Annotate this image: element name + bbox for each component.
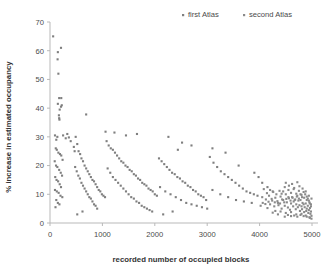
- data-point: [137, 177, 139, 179]
- data-point: [266, 207, 268, 209]
- data-point: [78, 150, 80, 152]
- data-point: [285, 182, 287, 184]
- y-tick-label: 30: [36, 133, 44, 142]
- data-point: [143, 206, 145, 208]
- data-point: [54, 206, 56, 208]
- data-point: [79, 177, 81, 179]
- data-point: [84, 165, 86, 167]
- data-point: [275, 193, 277, 195]
- data-point: [108, 144, 110, 146]
- data-point: [305, 190, 307, 192]
- data-point: [211, 147, 213, 149]
- data-point: [117, 182, 119, 184]
- data-point: [172, 210, 174, 212]
- data-point: [56, 149, 58, 151]
- data-point: [82, 160, 84, 162]
- data-point: [245, 190, 247, 192]
- data-point: [285, 193, 287, 195]
- data-point: [264, 203, 266, 205]
- data-point: [73, 146, 75, 148]
- y-tick-label: 0: [40, 219, 44, 228]
- data-point: [54, 176, 56, 178]
- data-point: [295, 193, 297, 195]
- data-point: [122, 187, 124, 189]
- data-point: [303, 197, 305, 199]
- data-point: [290, 202, 292, 204]
- x-tick-label: 2000: [146, 230, 163, 239]
- data-point: [143, 183, 145, 185]
- data-point: [106, 140, 108, 142]
- data-point: [133, 173, 135, 175]
- data-point: [156, 195, 158, 197]
- data-point: [120, 185, 122, 187]
- data-point: [292, 205, 294, 207]
- data-point: [284, 205, 286, 207]
- data-point: [182, 180, 184, 182]
- data-point: [187, 185, 189, 187]
- data-point: [290, 215, 292, 217]
- data-point: [302, 187, 304, 189]
- data-point: [249, 192, 251, 194]
- data-point: [304, 206, 306, 208]
- data-point: [60, 106, 62, 108]
- data-point: [303, 215, 305, 217]
- data-point: [70, 140, 72, 142]
- data-point: [54, 160, 56, 162]
- data-point: [74, 150, 76, 152]
- data-point: [200, 195, 202, 197]
- data-point: [84, 187, 86, 189]
- data-point: [298, 185, 300, 187]
- data-point: [114, 179, 116, 181]
- data-point: [211, 189, 213, 191]
- data-point: [283, 201, 285, 203]
- data-point: [261, 182, 263, 184]
- data-point: [112, 176, 114, 178]
- data-point: [269, 189, 271, 191]
- data-point: [234, 182, 236, 184]
- data-point: [113, 132, 115, 134]
- data-point: [298, 198, 300, 200]
- data-point: [90, 198, 92, 200]
- data-point: [159, 186, 161, 188]
- legend-label-2[interactable]: second Atlas: [249, 10, 292, 19]
- data-point: [308, 200, 310, 202]
- data-point: [175, 196, 177, 198]
- data-point: [295, 203, 297, 205]
- data-point: [61, 175, 63, 177]
- data-point: [290, 211, 292, 213]
- data-point: [253, 172, 255, 174]
- data-point: [303, 203, 305, 205]
- data-point: [79, 153, 81, 155]
- data-point: [196, 205, 198, 207]
- data-point: [80, 182, 82, 184]
- data-point: [174, 173, 176, 175]
- data-point: [158, 157, 160, 159]
- data-point: [305, 202, 307, 204]
- data-point: [202, 196, 204, 198]
- data-point: [287, 189, 289, 191]
- data-point: [287, 214, 289, 216]
- data-point: [272, 191, 274, 193]
- data-point: [139, 179, 141, 181]
- data-point: [282, 190, 284, 192]
- data-point: [284, 186, 286, 188]
- data-point: [307, 198, 309, 200]
- legend-label-1[interactable]: first Atlas: [188, 10, 219, 19]
- data-point: [85, 190, 87, 192]
- data-point: [116, 154, 118, 156]
- data-point: [195, 190, 197, 192]
- data-point: [57, 103, 59, 105]
- data-point: [227, 196, 229, 198]
- data-point: [81, 210, 83, 212]
- data-point: [104, 131, 106, 133]
- data-point: [278, 190, 280, 192]
- y-tick-label: 20: [36, 161, 44, 170]
- y-tick-label: 70: [36, 18, 44, 27]
- data-point: [281, 208, 283, 210]
- data-point: [190, 203, 192, 205]
- data-point: [265, 198, 267, 200]
- data-point: [62, 159, 64, 161]
- data-point: [57, 51, 59, 53]
- data-point: [284, 216, 286, 218]
- data-point: [306, 208, 308, 210]
